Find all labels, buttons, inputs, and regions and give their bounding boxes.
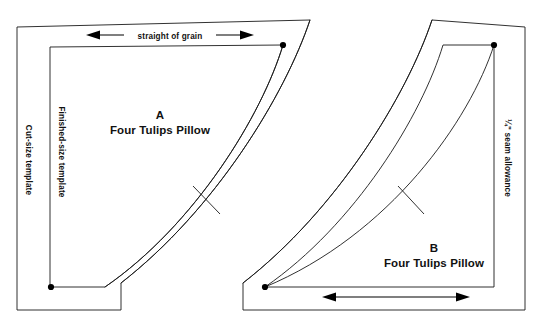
template-b-top-right-dot xyxy=(491,42,497,48)
template-b-bottom-left-dot xyxy=(262,284,268,290)
template-a-group: straight of grain Cut-size template Fini… xyxy=(17,20,310,310)
template-b-finished-size-outline xyxy=(265,45,494,287)
pattern-svg: straight of grain Cut-size template Fini… xyxy=(0,0,545,329)
template-b-finished-size-curve xyxy=(265,45,494,287)
template-b-grain-arrow xyxy=(322,292,470,301)
template-b-letter: B xyxy=(430,242,439,254)
template-a-finished-size-outline xyxy=(50,45,283,287)
template-b-notch-mark xyxy=(398,186,424,214)
template-a-cut-size-label: Cut-size template xyxy=(24,125,33,196)
template-a-finished-size-label: Finished-size template xyxy=(57,106,66,197)
template-b-name: Four Tulips Pillow xyxy=(384,257,484,269)
pattern-diagram: straight of grain Cut-size template Fini… xyxy=(0,0,545,329)
template-a-letter: A xyxy=(156,109,165,121)
template-a-finished-size-curve xyxy=(105,45,283,287)
template-b-seam-allowance-label: ¼" seam allowance xyxy=(503,119,512,197)
template-a-grain-label: straight of grain xyxy=(138,32,203,41)
template-b-group: ¼" seam allowance B Four Tulips Pillow xyxy=(243,20,525,310)
template-b-cut-size-curve xyxy=(243,20,432,283)
template-a-name: Four Tulips Pillow xyxy=(110,124,210,136)
template-a-bottom-left-dot xyxy=(48,284,54,290)
template-a-top-right-dot xyxy=(280,42,286,48)
template-a-cut-size-curve xyxy=(121,20,310,283)
